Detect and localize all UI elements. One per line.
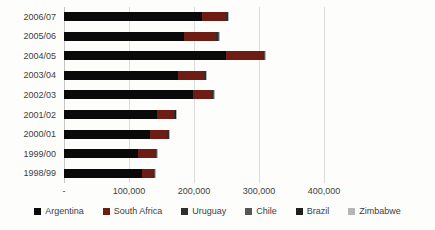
bar-segment-argentina: [64, 110, 157, 119]
category-axis-labels: 2006/072005/062004/052003/042002/032001/…: [0, 7, 60, 183]
legend-swatch-icon: [348, 208, 355, 215]
bar-stack: [64, 130, 169, 139]
legend-label: Uruguay: [192, 206, 226, 216]
bar-segment-argentina: [64, 12, 202, 21]
category-label: 2000/01: [0, 129, 56, 139]
legend-item-uruguay: Uruguay: [181, 206, 226, 216]
bar-segment-south-africa: [226, 51, 263, 60]
legend-item-zimbabwe: Zimbabwe: [348, 206, 401, 216]
legend-item-argentina: Argentina: [34, 206, 84, 216]
bar-segment-argentina: [64, 90, 193, 99]
category-label: 2004/05: [0, 51, 56, 61]
value-axis-tick-label: 100,000: [113, 186, 146, 196]
category-label: 2001/02: [0, 110, 56, 120]
gridline: [324, 7, 325, 183]
bar-segment-south-africa: [202, 12, 227, 21]
category-label: 2002/03: [0, 90, 56, 100]
stacked-bar-chart: 2006/072005/062004/052003/042002/032001/…: [0, 0, 435, 230]
legend-swatch-icon: [296, 208, 303, 215]
legend-swatch-icon: [181, 208, 188, 215]
bar-segment-south-africa: [178, 71, 204, 80]
bar-segment-south-africa: [142, 169, 153, 178]
value-axis-tick-label: 300,000: [243, 186, 276, 196]
legend-label: Zimbabwe: [359, 206, 401, 216]
bar-segment-south-africa: [157, 110, 174, 119]
value-axis-labels: -100,000200,000300,000400,000: [0, 186, 435, 198]
category-label: 2005/06: [0, 31, 56, 41]
category-label: 2006/07: [0, 12, 56, 22]
legend-swatch-icon: [103, 208, 110, 215]
legend-item-brazil: Brazil: [296, 206, 330, 216]
bar-row-2002-03: [64, 85, 324, 105]
bar-stack: [64, 32, 219, 41]
bar-segment-south-africa: [138, 149, 155, 158]
bar-row-2004-05: [64, 46, 324, 66]
chart-legend: ArgentinaSouth AfricaUruguayChileBrazilZ…: [0, 206, 435, 216]
bar-row-2003-04: [64, 66, 324, 86]
category-label: 2003/04: [0, 70, 56, 80]
bar-segment-argentina: [64, 130, 150, 139]
bar-stack: [64, 149, 157, 158]
legend-swatch-icon: [245, 208, 252, 215]
legend-label: Chile: [256, 206, 277, 216]
bar-segment-south-africa: [150, 130, 168, 139]
legend-swatch-icon: [34, 208, 41, 215]
bar-row-1998-99: [64, 163, 324, 183]
bar-segment-argentina: [64, 32, 184, 41]
legend-item-chile: Chile: [245, 206, 277, 216]
bar-segment-south-africa: [184, 32, 217, 41]
value-axis-tick-label: -: [63, 186, 66, 196]
bar-segment-argentina: [64, 149, 138, 158]
category-label: 1998/99: [0, 168, 56, 178]
legend-label: Brazil: [307, 206, 330, 216]
bar-stack: [64, 12, 229, 21]
bar-stack: [64, 51, 265, 60]
bar-row-2005-06: [64, 27, 324, 47]
value-axis-tick-label: 200,000: [178, 186, 211, 196]
bar-stack: [64, 110, 176, 119]
bar-stack: [64, 90, 214, 99]
legend-item-south-africa: South Africa: [103, 206, 163, 216]
legend-label: Argentina: [45, 206, 84, 216]
plot-area: [64, 7, 324, 183]
value-axis-tick-label: 400,000: [308, 186, 341, 196]
bar-stack: [64, 71, 207, 80]
bar-row-2006-07: [64, 7, 324, 27]
bar-row-2001-02: [64, 105, 324, 125]
bar-segment-argentina: [64, 169, 142, 178]
bar-row-1999-00: [64, 144, 324, 164]
bar-stack: [64, 169, 155, 178]
bar-segment-argentina: [64, 71, 178, 80]
category-label: 1999/00: [0, 149, 56, 159]
bar-row-2000-01: [64, 124, 324, 144]
legend-label: South Africa: [114, 206, 163, 216]
bar-segment-argentina: [64, 51, 226, 60]
bar-segment-south-africa: [193, 90, 212, 99]
